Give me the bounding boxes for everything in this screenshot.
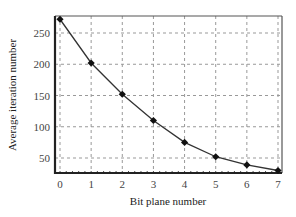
y-tick-label: 200: [34, 58, 51, 70]
x-tick-label: 7: [275, 178, 281, 190]
data-point-marker: [212, 153, 219, 160]
series-line: [60, 19, 278, 170]
y-axis-label: Average iteration number: [6, 39, 18, 152]
x-axis-label: Bit plane number: [130, 195, 207, 207]
x-tick-label: 6: [244, 178, 250, 190]
data-point-marker: [243, 161, 250, 168]
data-series: [56, 16, 281, 174]
y-tick-label: 100: [34, 121, 51, 133]
y-tick-label: 50: [39, 152, 51, 164]
x-tick-label: 2: [120, 178, 126, 190]
x-tick-label: 1: [88, 178, 94, 190]
x-tick-label: 5: [213, 178, 219, 190]
x-tick-label: 3: [151, 178, 157, 190]
y-tick-label: 250: [34, 27, 51, 39]
grid-lines: [55, 16, 282, 173]
line-chart: 0123456750100150200250 Bit plane number …: [0, 0, 296, 217]
x-tick-label: 4: [182, 178, 188, 190]
x-tick-label: 0: [57, 178, 63, 190]
y-tick-label: 150: [34, 90, 51, 102]
